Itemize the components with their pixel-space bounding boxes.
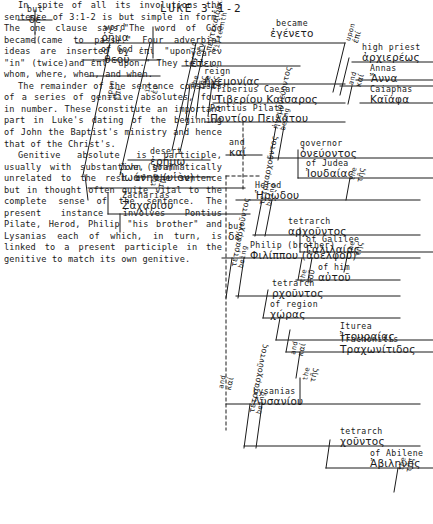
- node-and-herod: and καί: [229, 137, 246, 158]
- node-philip: Philip (brother) Φιλίππου (ἀδελφοῦ): [250, 240, 357, 261]
- node-governor: governor ὀνεύοντος: [300, 138, 357, 159]
- node-pontius-pilate: Pontius Pilate Ποντίου Πειλάτου: [210, 103, 308, 124]
- node-of-region: of region χώρας: [270, 299, 318, 320]
- node-the-judea: the τῆς: [349, 165, 368, 183]
- node-annas: Annas Ἄννα: [370, 63, 398, 84]
- commentary-paragraph-2: The remainder of the sentence consists o…: [4, 81, 222, 150]
- diagram-canvas: LUKE 3:1-2: [0, 0, 433, 524]
- node-caiaphas: Caiaphas Καϊάφα: [370, 84, 413, 105]
- node-of-judea: of Judea Ἰουδαίας: [306, 158, 354, 179]
- node-the-trachonitis: the τῆς: [302, 365, 321, 383]
- commentary-paragraph-1: In spite of all its involutions the sent…: [4, 0, 222, 81]
- node-high-priest: high priest ἀρχιερέως: [362, 42, 421, 63]
- node-the-abilene: the τῆς: [398, 455, 417, 473]
- node-and-trachonitis: and καί: [290, 340, 308, 357]
- node-and-caiaphas: and καί: [348, 71, 367, 89]
- node-tetrarch2: tetrarch ρχοῦντος: [272, 278, 324, 299]
- node-trachonitis: Trachonitis Τραχωνίτιδος: [340, 334, 416, 355]
- node-and-lysanias: and καί: [218, 374, 236, 391]
- node-tetrarch3: tetrarch χοῦντος: [340, 426, 385, 447]
- commentary-text: In spite of all its involutions the sent…: [4, 0, 222, 266]
- node-became: became ἐγένετο: [252, 18, 332, 39]
- commentary-paragraph-3: Genitive absolute is participle, usually…: [4, 150, 222, 265]
- node-tiberius-caesar: Tiberius Caesar Τιβερίου Καίσαρος: [216, 84, 318, 105]
